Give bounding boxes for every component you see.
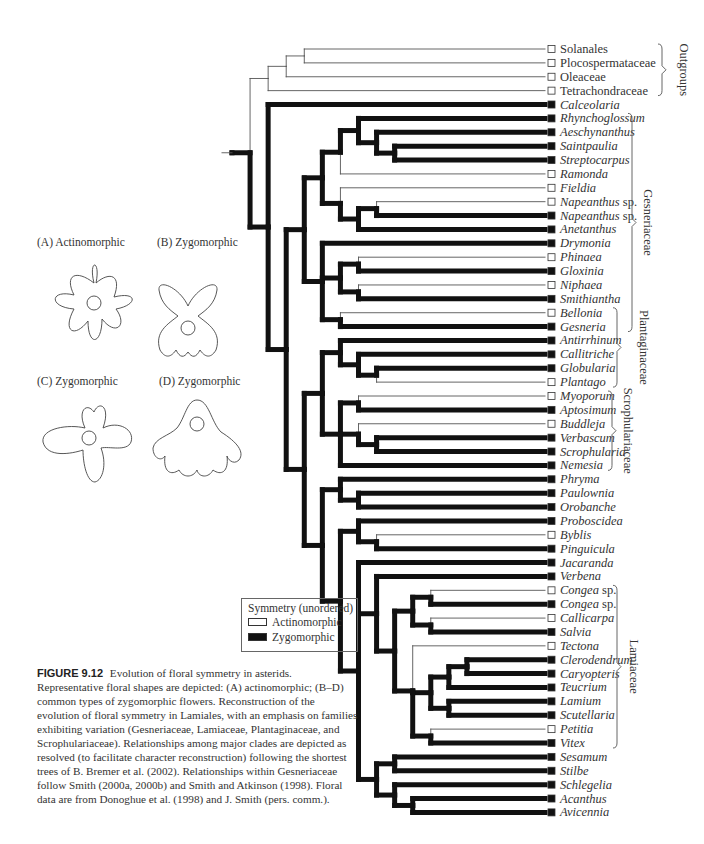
flower-diagrams xyxy=(43,265,241,482)
actinomorphic-state-icon xyxy=(548,73,555,80)
taxon-label: Teucrium xyxy=(560,680,607,694)
group-bracket xyxy=(658,44,666,96)
zygomorphic-state-icon xyxy=(548,462,555,469)
flower-label-b: (B) Zygomorphic xyxy=(157,236,238,248)
zygomorphic-state-icon xyxy=(548,240,555,247)
flower-c-zygomorphic-icon xyxy=(43,406,132,482)
taxon-label: Smithiantha xyxy=(560,292,620,306)
taxon-label: Phinaea xyxy=(559,250,602,264)
zygomorphic-state-icon xyxy=(548,573,555,580)
taxon-label: Caryopteris xyxy=(560,667,620,681)
taxon-label: Orobanche xyxy=(560,500,616,514)
taxon-label: Plocospermataceae xyxy=(560,56,656,70)
taxon-label: Ramonda xyxy=(559,167,608,181)
actinomorphic-state-icon xyxy=(548,726,555,733)
actinomorphic-state-icon xyxy=(548,420,555,427)
taxon-label: Gloxinia xyxy=(560,264,604,278)
taxon-label: Acanthus xyxy=(559,792,607,806)
group-label: Plantaginaceae xyxy=(637,310,651,385)
actinomorphic-state-icon xyxy=(548,642,555,649)
actinomorphic-state-icon xyxy=(548,615,555,622)
zygomorphic-state-icon xyxy=(548,601,555,608)
taxon-label: Lamium xyxy=(559,694,601,708)
taxon-label: Anetanthus xyxy=(559,222,616,236)
open-swatch-icon xyxy=(248,618,267,626)
zygomorphic-state-icon xyxy=(548,212,555,219)
taxon-label: Jacaranda xyxy=(560,556,613,570)
zygomorphic-state-icon xyxy=(548,559,555,566)
figure-caption: FIGURE 9.12 Evolution of floral symmetry… xyxy=(37,666,359,806)
taxon-label: Napeanthus sp. xyxy=(559,195,637,209)
legend-label: Zygomorphic xyxy=(272,631,335,643)
zygomorphic-state-icon xyxy=(548,656,555,663)
zygomorphic-state-icon xyxy=(548,753,555,760)
zygomorphic-state-icon xyxy=(548,115,555,122)
legend-label: Actinomorphic xyxy=(272,616,342,628)
actinomorphic-state-icon xyxy=(548,587,555,594)
flower-b-zygomorphic-icon xyxy=(159,285,218,357)
group-label: Scrophulariaceae xyxy=(621,388,635,475)
taxon-label: Congea sp. xyxy=(560,597,616,611)
taxon-label: Pinguicula xyxy=(559,542,615,556)
taxon-label: Solanales xyxy=(560,42,608,56)
actinomorphic-state-icon xyxy=(548,87,555,94)
zygomorphic-state-icon xyxy=(548,337,555,344)
zygomorphic-state-icon xyxy=(548,351,555,358)
taxon-label: Scrophularia xyxy=(560,445,626,459)
zygomorphic-state-icon xyxy=(548,448,555,455)
taxon-label: Sesamum xyxy=(560,750,607,764)
taxon-label: Globularia xyxy=(560,361,616,375)
flower-label-c: (C) Zygomorphic xyxy=(37,375,118,387)
filled-swatch-icon xyxy=(248,633,267,641)
actinomorphic-state-icon xyxy=(548,198,555,205)
taxon-label: Saintpaulia xyxy=(560,139,618,153)
flower-d-zygomorphic-icon xyxy=(153,400,241,476)
zygomorphic-state-icon xyxy=(548,406,555,413)
zygomorphic-state-icon xyxy=(548,365,555,372)
taxon-label: Congea sp. xyxy=(560,583,616,597)
group-brackets: OutgroupsGesneriaceaePlantaginaceaeScrop… xyxy=(608,43,691,748)
legend-item-zygomorphic: Zygomorphic xyxy=(248,630,357,644)
taxon-label: Salvia xyxy=(560,625,591,639)
taxon-label: Antirrhinum xyxy=(559,333,622,347)
taxon-label: Avicennia xyxy=(559,805,609,819)
actinomorphic-state-icon xyxy=(548,59,555,66)
group-label: Gesneriaceae xyxy=(641,189,655,256)
taxon-label: Nemesia xyxy=(559,458,603,472)
taxon-label: Callitriche xyxy=(560,347,615,361)
zygomorphic-state-icon xyxy=(548,781,555,788)
taxon-label: Clerodendrum xyxy=(560,653,632,667)
taxon-label: Calceolaria xyxy=(560,98,620,112)
taxon-label: Verbascum xyxy=(560,431,615,445)
taxon-labels: SolanalesPlocospermataceaeOleaceaeTetrac… xyxy=(548,42,656,819)
zygomorphic-state-icon xyxy=(548,628,555,635)
actinomorphic-state-icon xyxy=(548,393,555,400)
taxon-label: Scutellaria xyxy=(560,708,615,722)
taxon-label: Napeanthus sp. xyxy=(559,209,637,223)
taxon-label: Myoporum xyxy=(559,389,615,403)
taxon-label: Aeschynanthus xyxy=(559,125,635,139)
legend-item-actinomorphic: Actinomorphic xyxy=(248,615,357,629)
zygomorphic-state-icon xyxy=(548,490,555,497)
group-label: Outgroups xyxy=(677,43,691,96)
actinomorphic-state-icon xyxy=(548,309,555,316)
zygomorphic-state-icon xyxy=(548,323,555,330)
taxon-label: Plantago xyxy=(559,375,606,389)
zygomorphic-state-icon xyxy=(548,129,555,136)
taxon-label: Callicarpa xyxy=(560,611,614,625)
zygomorphic-state-icon xyxy=(548,268,555,275)
zygomorphic-state-icon xyxy=(548,476,555,483)
taxon-label: Proboscidea xyxy=(559,514,623,528)
taxon-label: Buddleja xyxy=(560,417,605,431)
zygomorphic-state-icon xyxy=(548,809,555,816)
group-label: Lamiaceae xyxy=(627,640,641,695)
zygomorphic-state-icon xyxy=(548,740,555,747)
taxon-label: Fieldia xyxy=(559,181,596,195)
flower-a-actinomorphic-icon xyxy=(55,265,132,340)
actinomorphic-state-icon xyxy=(548,254,555,261)
zygomorphic-state-icon xyxy=(548,767,555,774)
zygomorphic-state-icon xyxy=(548,670,555,677)
zygomorphic-state-icon xyxy=(548,101,555,108)
zygomorphic-state-icon xyxy=(548,143,555,150)
zygomorphic-state-icon xyxy=(548,517,555,524)
